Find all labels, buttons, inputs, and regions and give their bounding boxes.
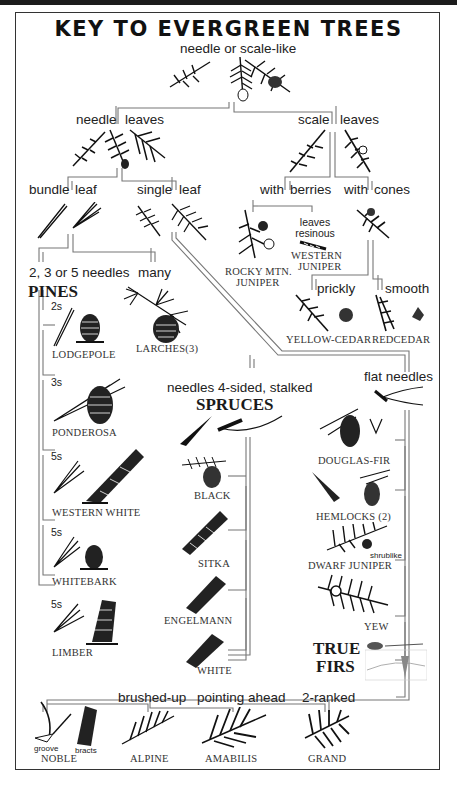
noble-fir-label: NOBLE xyxy=(41,754,77,765)
western-juniper-label-2: JUNIPER xyxy=(298,262,341,273)
whitebark-label: WHITEBARK xyxy=(52,577,117,588)
ponderosa-label: PONDEROSA xyxy=(52,428,117,439)
dwarf-juniper-label: DWARF JUNIPER xyxy=(308,561,392,572)
western-white-cone-icon xyxy=(50,445,150,505)
true-fir-landscape-icon xyxy=(365,640,427,682)
yellow-cedar-icon xyxy=(294,293,364,333)
yew-sprig-icon xyxy=(316,573,390,615)
two-ranked-label: 2-ranked xyxy=(302,691,355,705)
ponderosa-cone-icon xyxy=(50,375,130,425)
rocky-juniper-label-2: JUNIPER xyxy=(236,278,279,289)
branch-sprig-icon xyxy=(165,57,295,103)
cones-label-left: with xyxy=(344,183,368,197)
yew-label: YEW xyxy=(364,622,389,633)
bundle-label-left: bundle xyxy=(29,183,70,197)
berries-label-left: with xyxy=(260,183,284,197)
pointing-ahead-label: pointing ahead xyxy=(197,691,286,705)
amabilis-fir-icon xyxy=(200,707,270,751)
limber-cone-icon xyxy=(50,596,125,646)
redcedar-label: REDCEDAR xyxy=(372,335,430,346)
lodgepole-cone-icon xyxy=(50,302,110,348)
douglas-fir-label: DOUGLAS-FIR xyxy=(318,456,390,467)
grand-fir-label: GRAND xyxy=(308,754,346,765)
whitebark-cone-icon xyxy=(50,535,110,575)
black-spruce-label: BLACK xyxy=(194,491,231,502)
limber-label: LIMBER xyxy=(52,648,93,659)
true-firs-label-2: FIRS xyxy=(316,658,355,675)
hemlock-cones-icon xyxy=(310,468,392,508)
redcedar-icon xyxy=(372,293,432,333)
page-title: KEY TO EVERGREEN TREES xyxy=(0,19,457,40)
needle-branch-label-left: needle xyxy=(76,113,117,127)
single-label-right: leaf xyxy=(179,183,201,197)
pines-count-label: 2, 3 or 5 needles xyxy=(29,266,130,280)
rocky-juniper-label-1: ROCKY MTN. xyxy=(225,267,292,278)
flat-needles-label: flat needles xyxy=(364,370,433,384)
single-label-left: single xyxy=(137,183,172,197)
amabilis-fir-label: AMABILIS xyxy=(205,754,257,765)
resinous-label-2: resinous xyxy=(290,228,340,239)
rocky-mtn-juniper-icon xyxy=(233,208,278,263)
black-spruce-cone-icon xyxy=(180,455,230,490)
root-label: needle or scale-like xyxy=(180,42,296,56)
grand-fir-icon xyxy=(303,708,353,750)
white-spruce-cone-icon xyxy=(182,628,230,668)
yellow-cedar-label: YELLOW-CEDAR xyxy=(286,335,371,346)
resinous-label-1: leaves xyxy=(295,217,335,228)
spruces-group-label: SPRUCES xyxy=(196,396,273,413)
brushed-up-label: brushed-up xyxy=(118,691,186,705)
pines-group-label: PINES xyxy=(28,283,78,300)
scale-branch-label-left: scale xyxy=(298,113,330,127)
scale-leaves-icon xyxy=(285,128,395,178)
alpine-fir-icon xyxy=(120,710,178,748)
douglas-fir-cone-icon xyxy=(318,405,388,449)
groove-label: groove xyxy=(34,745,58,753)
engelmann-spruce-cone-icon xyxy=(182,572,230,614)
western-juniper-label-1: WESTERN xyxy=(291,251,342,262)
true-firs-label-1: TRUE xyxy=(313,640,360,657)
hemlocks-label: HEMLOCKS (2) xyxy=(316,512,391,523)
dwarf-juniper-icon xyxy=(325,522,395,554)
needle-branch-label-right: leaves xyxy=(125,113,164,127)
spruce-needle-icon xyxy=(178,412,288,448)
needle-leaves-icon xyxy=(70,128,170,170)
scale-branch-label-right: leaves xyxy=(340,113,379,127)
single-leaf-icon xyxy=(134,200,214,242)
many-label: many xyxy=(138,266,171,280)
shrublike-label: shrublike xyxy=(370,552,402,560)
alpine-fir-label: ALPINE xyxy=(130,754,169,765)
western-white-label: WESTERN WHITE xyxy=(52,508,140,519)
berries-label-right: berries xyxy=(290,183,331,197)
sitka-spruce-cone-icon xyxy=(180,505,230,555)
lodgepole-label: LODGEPOLE xyxy=(52,350,116,361)
larches-label: LARCHES(3) xyxy=(136,344,198,355)
spruce-desc-label: needles 4-sided, stalked xyxy=(167,381,313,395)
noble-fir-icon xyxy=(33,698,103,748)
cones-scale-sprig-icon xyxy=(353,206,398,242)
white-spruce-label: WHITE xyxy=(197,666,232,677)
larch-icon xyxy=(118,283,200,345)
engelmann-spruce-label: ENGELMANN xyxy=(164,616,232,627)
bundle-leaf-icon xyxy=(35,202,105,240)
bracts-label: bracts xyxy=(75,747,97,755)
bundle-label-right: leaf xyxy=(75,183,97,197)
sitka-spruce-label: SITKA xyxy=(198,559,230,570)
cones-label-right: cones xyxy=(374,183,410,197)
